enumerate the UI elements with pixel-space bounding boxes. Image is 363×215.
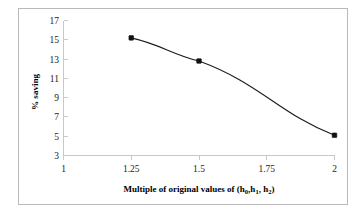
- x-axis-tick-labels: 1 1.25 1.5 1.75 2: [61, 164, 337, 174]
- series-line: [131, 38, 334, 135]
- y-tick-label: 13: [50, 55, 60, 65]
- y-axis-title: % saving: [30, 74, 40, 110]
- line-chart: 17 15 13 11 9 7 5 3 1 1.25 1.5 1.75 2 % …: [0, 0, 363, 215]
- y-tick-label: 5: [54, 132, 59, 142]
- data-series: [129, 36, 337, 138]
- data-point-marker: [332, 133, 337, 138]
- x-axis-title-lead: Multiple of original values of (h: [124, 184, 245, 194]
- y-tick-label: 7: [54, 112, 59, 122]
- x-axis-title-mid2: , h: [259, 184, 269, 194]
- data-point-marker: [129, 36, 134, 41]
- x-axis-title-mid1: ,h: [248, 184, 255, 194]
- y-tick-label: 3: [54, 151, 59, 161]
- y-tick-label: 9: [54, 93, 59, 103]
- y-axis-ticks: [64, 21, 68, 156]
- x-tick-label: 1: [61, 164, 66, 174]
- y-tick-label: 11: [50, 74, 59, 84]
- y-axis-tick-labels: 17 15 13 11 9 7 5 3: [50, 16, 60, 161]
- x-tick-label: 1.25: [123, 164, 140, 174]
- x-axis-ticks: [64, 156, 335, 160]
- y-tick-label: 15: [50, 35, 60, 45]
- x-tick-label: 1.75: [258, 164, 275, 174]
- data-point-marker: [197, 59, 202, 64]
- x-axis-title-tail: ): [271, 184, 274, 194]
- y-tick-label: 17: [50, 16, 60, 26]
- x-tick-label: 2: [332, 164, 337, 174]
- figure-container: 17 15 13 11 9 7 5 3 1 1.25 1.5 1.75 2 % …: [0, 0, 363, 215]
- x-tick-label: 1.5: [193, 164, 205, 174]
- x-axis-title: Multiple of original values of (h0,h1, h…: [124, 184, 275, 195]
